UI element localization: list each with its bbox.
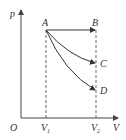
point-c-label: C: [100, 58, 107, 69]
v2-tick-label: V2: [91, 122, 100, 134]
point-d-label: D: [99, 85, 108, 96]
v1-tick-label: V1: [41, 122, 50, 134]
pv-diagram: p V O V1 V2 A B C D: [0, 0, 126, 140]
point-a-label: A: [41, 17, 49, 28]
v-axis-label: V: [113, 122, 121, 133]
process-a-to-d: [46, 30, 95, 90]
origin-label: O: [10, 122, 17, 133]
process-a-to-c: [46, 30, 95, 63]
p-axis-label: p: [9, 8, 15, 19]
point-b-label: B: [92, 17, 98, 28]
